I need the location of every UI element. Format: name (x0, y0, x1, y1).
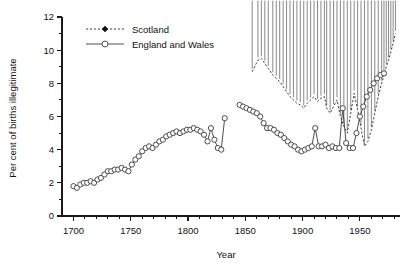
axes: 024681012170017501800185019001950 (43, 11, 400, 236)
data-point (212, 137, 217, 142)
x-tick-label: 1900 (292, 225, 313, 236)
chart-legend: ScotlandEngland and Wales (86, 24, 214, 50)
data-point (126, 169, 131, 174)
data-point (368, 87, 373, 92)
series-scotland (252, 1, 395, 147)
series-england-and-wales (71, 71, 387, 191)
y-tick-label: 6 (49, 111, 54, 122)
y-tick-label: 4 (49, 144, 54, 155)
data-point (344, 140, 349, 145)
chart-container: 024681012170017501800185019001950 Scotla… (0, 0, 409, 268)
y-tick-label: 10 (43, 45, 54, 56)
data-point (381, 71, 386, 76)
data-point (350, 145, 355, 150)
y-tick-label: 0 (49, 210, 54, 221)
data-point (337, 145, 342, 150)
legend-label-england-and-wales: England and Wales (132, 39, 214, 50)
legend-marker-england-and-wales (102, 41, 108, 47)
y-tick-label: 8 (49, 78, 54, 89)
illegitimacy-line-chart: 024681012170017501800185019001950 Scotla… (0, 0, 409, 268)
y-tick-label: 2 (49, 177, 54, 188)
data-point (219, 147, 224, 152)
y-tick-label: 12 (43, 11, 54, 22)
x-tick-label: 1850 (235, 225, 256, 236)
data-point (258, 114, 263, 119)
data-point (357, 114, 362, 119)
data-point (364, 94, 369, 99)
data-point (371, 81, 376, 86)
data-point (309, 144, 314, 149)
data-point (340, 106, 345, 111)
data-point (136, 154, 141, 159)
y-axis-title: Per cent of births illegitimate (7, 58, 18, 177)
legend-label-scotland: Scotland (132, 24, 169, 35)
x-tick-label: 1800 (177, 225, 198, 236)
data-point (354, 130, 359, 135)
data-point (261, 121, 266, 126)
x-axis-title: Year (216, 249, 235, 260)
x-tick-label: 1950 (349, 225, 370, 236)
data-point (361, 104, 366, 109)
data-point (129, 162, 134, 167)
series-line (240, 73, 384, 151)
data-point (201, 132, 206, 137)
data-point (208, 126, 213, 131)
axis-lines (62, 17, 400, 216)
data-point (222, 116, 227, 121)
data-point (205, 139, 210, 144)
x-tick-label: 1750 (120, 225, 141, 236)
x-tick-label: 1700 (63, 225, 84, 236)
legend-marker-scotland (102, 26, 108, 32)
data-point (313, 126, 318, 131)
